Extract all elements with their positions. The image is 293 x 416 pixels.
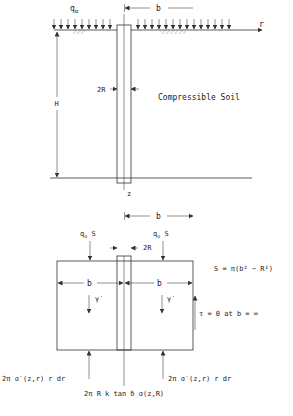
boundary-condition: τ = 0 at b = ∞ bbox=[199, 310, 259, 318]
radial-axis-label: r bbox=[259, 20, 264, 29]
lower-width-label: b bbox=[156, 212, 161, 221]
lower-pile-diameter-dimension: 2R bbox=[110, 244, 152, 252]
pile-diameter-label: 2R bbox=[97, 86, 106, 94]
pile-friction-label: 2π R k tan δ σ(z,R) bbox=[84, 390, 164, 398]
pile-diameter-dimension: 2R bbox=[97, 86, 139, 94]
width-label: b bbox=[156, 4, 161, 13]
distributed-load-arrows-right bbox=[138, 19, 229, 29]
left-unit-weight-label: γ′ bbox=[95, 295, 103, 303]
area-formula: S = π(b² − R²) bbox=[214, 265, 273, 273]
ground-hatch-right bbox=[160, 30, 186, 34]
vertical-axis-label: z bbox=[127, 190, 131, 198]
right-width-label: b bbox=[157, 279, 162, 288]
lower-width-dimension: b bbox=[125, 212, 194, 221]
lower-diagram: b qo S qo S 2R S = π(b² − R²) b b bbox=[2, 212, 273, 398]
load-label: qo bbox=[70, 4, 79, 14]
left-load-label: qo S bbox=[80, 230, 96, 239]
lower-pile-diameter-label: 2R bbox=[143, 244, 152, 252]
depth-label: H bbox=[55, 100, 59, 108]
right-width-dimension: b bbox=[125, 279, 192, 288]
upper-diagram: qo b bbox=[50, 4, 264, 198]
right-unit-weight-label: γ′ bbox=[167, 295, 175, 303]
pile-soil-diagram: qo b bbox=[0, 0, 293, 416]
width-dimension: b bbox=[125, 4, 194, 13]
ground-hatch-left bbox=[73, 30, 85, 34]
soil-element-box bbox=[57, 261, 193, 350]
right-reaction-label: 2π σ′(z,r) r dr bbox=[168, 375, 231, 383]
left-reaction-label: 2π σ′(z,r) r dr bbox=[2, 375, 65, 383]
left-width-label: b bbox=[87, 279, 92, 288]
distributed-load-arrows-left bbox=[54, 19, 110, 29]
right-load-label: qo S bbox=[153, 230, 169, 239]
soil-label: Compressible Soil bbox=[158, 93, 240, 102]
depth-dimension: H bbox=[55, 32, 59, 177]
left-width-dimension: b bbox=[58, 279, 123, 288]
